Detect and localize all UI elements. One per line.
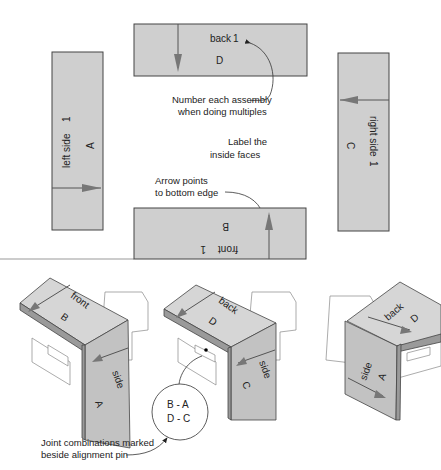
back-letter: D	[216, 55, 223, 66]
left-letter: A	[85, 142, 96, 149]
note-joint-2: beside alignment pin	[41, 449, 128, 460]
right-label: right side	[368, 116, 379, 157]
note-number-2: when doing multiples	[177, 106, 267, 117]
left-side-panel: left side 1 A	[52, 52, 103, 230]
left-number: 1	[61, 116, 72, 122]
note-label-1: Label the	[228, 136, 267, 147]
diagram-canvas: back 1 D Number each assembly when doing…	[0, 0, 441, 470]
assembly-back-side-right: back D side A	[326, 282, 441, 420]
front-letter: B	[222, 221, 229, 232]
right-number: 1	[368, 161, 379, 167]
right-side-panel: right side 1 C	[338, 53, 389, 231]
back-number: 1	[233, 33, 239, 44]
note-arrow-2: to bottom edge	[155, 187, 218, 198]
assembly-front-side: front B side A	[20, 278, 148, 448]
right-letter: C	[345, 142, 356, 149]
circle-line-2: D - C	[167, 413, 190, 424]
note-number-1: Number each assembly	[172, 94, 272, 105]
back-panel: back 1 D	[134, 24, 307, 76]
front-number: 1	[200, 244, 206, 255]
note-label-2: inside faces	[210, 149, 260, 160]
front-panel: B front 1	[134, 208, 306, 259]
left-label: left side	[61, 133, 72, 168]
circle-line-1: B - A	[167, 399, 189, 410]
note-arrow-1: Arrow points	[155, 175, 208, 186]
alignment-pin	[204, 348, 208, 352]
joint-combination-circle: B - A D - C	[152, 384, 208, 440]
front-label: front	[218, 244, 238, 255]
back-label: back	[210, 33, 232, 44]
note-joint-1: Joint combinations marked	[41, 437, 154, 448]
